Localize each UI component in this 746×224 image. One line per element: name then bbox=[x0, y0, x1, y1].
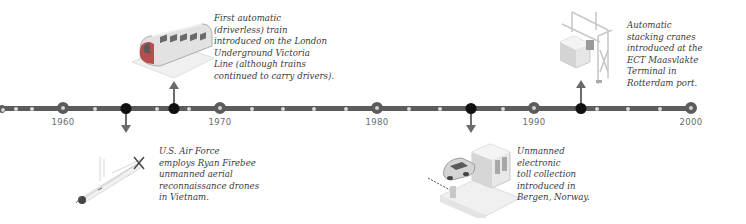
caption-line: introduced in bbox=[517, 181, 590, 193]
minor-tick bbox=[281, 107, 285, 111]
arrow-up-icon bbox=[169, 81, 179, 89]
caption-line: electronic bbox=[517, 158, 590, 170]
year-label-1990: 1990 bbox=[523, 117, 546, 127]
minor-tick bbox=[93, 107, 97, 111]
minor-tick bbox=[14, 107, 18, 111]
decade-marker-1970 bbox=[214, 102, 226, 114]
caption-line: Bergen, Norway. bbox=[517, 192, 590, 204]
event-caption-firebee: U.S. Air Force employs Ryan Firebee unma… bbox=[159, 146, 259, 204]
caption-line: employs Ryan Firebee bbox=[159, 158, 259, 170]
automation-timeline: 1960 1970 1980 1990 2000 U.S. Air Force … bbox=[0, 0, 746, 224]
caption-line: unmanned aerial bbox=[159, 169, 259, 181]
caption-line: Automatic bbox=[627, 20, 703, 32]
caption-line: reconnaissance drones bbox=[159, 181, 259, 193]
event-marker-ect-cranes bbox=[576, 103, 587, 114]
caption-line: introduced on the London bbox=[214, 36, 334, 48]
minor-tick bbox=[312, 107, 316, 111]
caption-line: ECT Maasvlakte bbox=[627, 55, 703, 67]
caption-line: (driverless) train bbox=[214, 25, 334, 37]
minor-tick bbox=[658, 107, 662, 111]
train-icon bbox=[130, 22, 214, 80]
year-label-1970: 1970 bbox=[209, 117, 232, 127]
caption-line: stacking cranes bbox=[627, 32, 703, 44]
caption-line: Line (although trains bbox=[214, 59, 334, 71]
caption-line: toll collection bbox=[517, 169, 590, 181]
axis-start-marker bbox=[0, 105, 6, 113]
year-label-1980: 1980 bbox=[366, 117, 389, 127]
decade-marker-1960 bbox=[57, 102, 69, 114]
caption-line: Underground Victoria bbox=[214, 48, 334, 60]
decade-marker-2000 bbox=[685, 102, 697, 114]
minor-tick bbox=[344, 107, 348, 111]
minor-tick bbox=[438, 107, 442, 111]
arrow-down-icon bbox=[121, 125, 131, 133]
decade-marker-1990 bbox=[528, 102, 540, 114]
decade-marker-1980 bbox=[371, 102, 383, 114]
minor-tick bbox=[187, 107, 191, 111]
minor-tick bbox=[250, 107, 254, 111]
caption-line: Rotterdam port. bbox=[627, 78, 703, 90]
minor-tick bbox=[30, 107, 34, 111]
minor-tick bbox=[595, 107, 599, 111]
arrow-down-icon bbox=[466, 125, 476, 133]
event-marker-firebee bbox=[121, 103, 132, 114]
event-marker-bergen-toll bbox=[466, 103, 477, 114]
drone-icon bbox=[72, 145, 156, 207]
minor-tick bbox=[407, 107, 411, 111]
caption-line: continued to carry drivers). bbox=[214, 71, 334, 83]
event-caption-ect-cranes: Automatic stacking cranes introduced at … bbox=[627, 20, 703, 90]
event-marker-victoria-line bbox=[169, 103, 180, 114]
caption-line: in Vietnam. bbox=[159, 192, 259, 204]
caption-line: First automatic bbox=[214, 13, 334, 25]
minor-tick bbox=[626, 107, 630, 111]
crane-icon bbox=[560, 6, 622, 86]
minor-tick bbox=[501, 107, 505, 111]
event-caption-victoria-line: First automatic (driverless) train intro… bbox=[214, 13, 334, 83]
caption-line: introduced at the bbox=[627, 43, 703, 55]
caption-line: Unmanned bbox=[517, 146, 590, 158]
year-label-2000: 2000 bbox=[680, 117, 703, 127]
toll-booth-icon bbox=[428, 138, 522, 218]
year-label-1960: 1960 bbox=[52, 117, 75, 127]
caption-line: Terminal in bbox=[627, 66, 703, 78]
caption-line: U.S. Air Force bbox=[159, 146, 259, 158]
event-caption-bergen-toll: Unmanned electronic toll collection intr… bbox=[517, 146, 590, 204]
minor-tick bbox=[155, 107, 159, 111]
